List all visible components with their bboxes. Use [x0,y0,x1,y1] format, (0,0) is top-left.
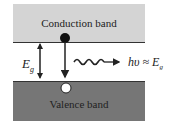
hole-icon [61,83,71,93]
photon-wave-icon [74,60,104,65]
electron-icon [60,33,70,43]
photon-energy-label: hυ ≈ Eg [128,55,163,71]
gap-energy-label: Eg [22,56,34,74]
